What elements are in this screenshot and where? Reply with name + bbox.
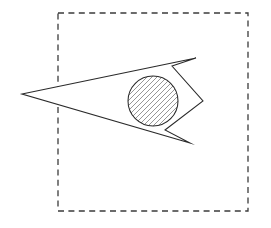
figure-svg: Hatched circle inscribed in a notched we… — [0, 0, 271, 228]
diagram-canvas: Hatched circle inscribed in a notched we… — [0, 0, 271, 228]
